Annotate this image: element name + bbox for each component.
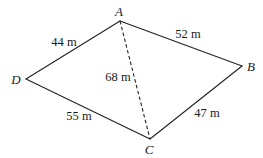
vertex-label-a: A: [114, 4, 123, 19]
diagram-canvas: 44 m 52 m 47 m 55 m 68 m A B C D: [0, 0, 263, 158]
edge-labels-group: 44 m 52 m 47 m 55 m 68 m: [51, 27, 220, 123]
edge-label-ac: 68 m: [105, 70, 131, 84]
edge-label-cd: 55 m: [66, 109, 92, 123]
vertex-label-c: C: [145, 142, 154, 157]
edge-bc: [150, 66, 242, 139]
quadrilateral-diagram: 44 m 52 m 47 m 55 m 68 m A B C D: [0, 0, 263, 158]
vertex-labels-group: A B C D: [10, 4, 255, 157]
edge-label-bc: 47 m: [194, 106, 220, 120]
edge-label-da: 44 m: [51, 35, 77, 49]
vertex-label-b: B: [247, 59, 255, 74]
vertex-label-d: D: [10, 72, 21, 87]
edge-label-ab: 52 m: [175, 27, 201, 41]
